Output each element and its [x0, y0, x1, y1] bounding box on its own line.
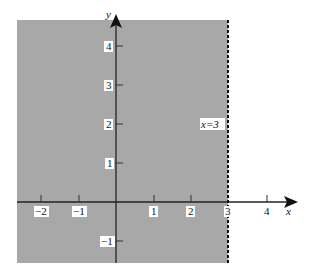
y-tick-label: 1 [107, 157, 113, 169]
x-tick-label: 1 [151, 205, 157, 217]
y-tick-label: −1 [101, 235, 113, 247]
y-tick-label: 2 [106, 118, 112, 130]
inequality-graph: −2 −1 1 2 3 4 x 4 3 2 1 −1 y x=3 [0, 0, 320, 276]
boundary-label: x=3 [200, 118, 219, 130]
x-tick-label: 3 [225, 205, 231, 217]
y-axis-label: y [105, 8, 111, 20]
shaded-region [17, 20, 228, 263]
y-tick-label: 3 [106, 79, 112, 91]
x-tick-label: −1 [73, 205, 85, 217]
x-tick-label: 2 [188, 205, 194, 217]
x-tick-label: −2 [35, 205, 47, 217]
x-tick-label: 4 [264, 205, 270, 217]
y-tick-label: 4 [106, 40, 112, 52]
x-axis-label: x [285, 205, 291, 217]
